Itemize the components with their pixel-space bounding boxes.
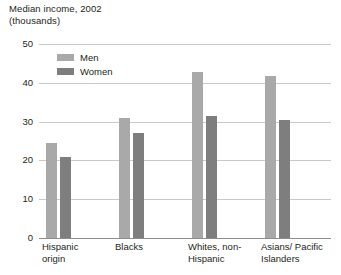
bar-group [185, 44, 258, 238]
y-axis-tick-label: 10 [7, 194, 33, 204]
legend-swatch-icon [57, 54, 74, 61]
bar-women [206, 116, 217, 238]
bar-men [46, 143, 57, 238]
legend-item-women: Women [57, 64, 113, 78]
legend-label: Women [80, 66, 113, 77]
y-axis-tick-label: 50 [7, 39, 33, 49]
bar-group [258, 44, 331, 238]
bar-men [192, 72, 203, 238]
x-axis-tick-label: Hispanic origin [42, 241, 121, 265]
chart-container: Median income, 2002 (thousands) 50403020… [0, 0, 341, 275]
bar-women [60, 157, 71, 238]
legend-swatch-icon [57, 68, 74, 75]
bar-women [279, 120, 290, 238]
y-axis-tick-labels: 50403020100 [0, 44, 33, 238]
bar-men [119, 118, 130, 238]
legend-label: Men [80, 52, 98, 63]
y-axis-tick-label: 0 [7, 233, 33, 243]
x-axis-tick-label: Whites, non- Hispanic [188, 241, 267, 265]
y-axis-tick-label: 30 [7, 117, 33, 127]
legend-item-men: Men [57, 50, 113, 64]
y-axis-tick-label: 40 [7, 78, 33, 88]
x-axis-tick-label: Blacks [115, 241, 194, 253]
chart-legend: MenWomen [57, 50, 113, 78]
bar-group [112, 44, 185, 238]
y-axis-tick-label: 20 [7, 155, 33, 165]
bar-women [133, 133, 144, 238]
chart-title: Median income, 2002 (thousands) [9, 3, 102, 27]
bar-men [265, 76, 276, 238]
x-axis-category-labels: Hispanic originBlacksWhites, non- Hispan… [39, 241, 339, 273]
x-axis-tick-label: Asians/ Pacific Islanders [261, 241, 340, 265]
x-axis-baseline [39, 238, 331, 239]
